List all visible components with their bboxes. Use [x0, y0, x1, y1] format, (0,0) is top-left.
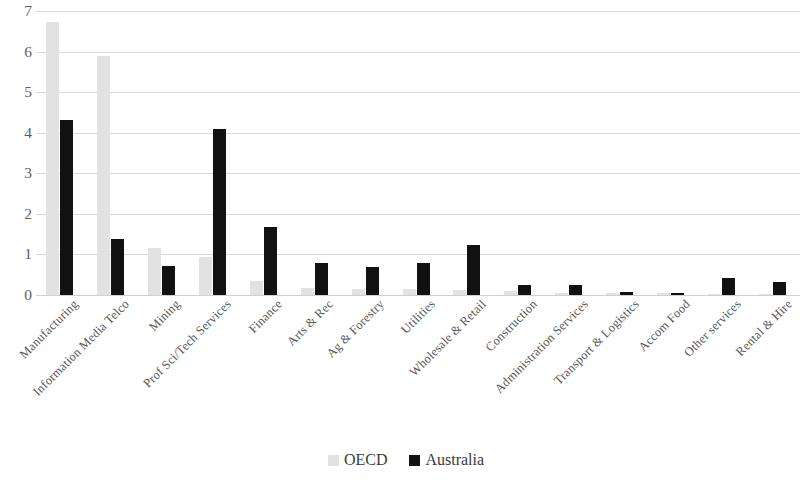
- y-axis-tick-label: 1: [4, 247, 32, 263]
- y-axis-tick-label: 0: [4, 287, 32, 303]
- plot-area: [36, 11, 800, 295]
- legend-swatch-oecd: [328, 455, 339, 466]
- bar-australia: [773, 282, 786, 295]
- x-axis-category-labels: ManufacturingInformation Media TelcoMini…: [36, 297, 800, 437]
- bar-oecd: [504, 291, 517, 295]
- bar-group: [453, 11, 480, 295]
- bar-australia: [569, 285, 582, 295]
- bar-oecd: [301, 288, 314, 295]
- x-axis-tick-label: Arts & Rec: [284, 297, 336, 349]
- bar-group: [657, 11, 684, 295]
- legend-swatch-aus: [409, 455, 420, 466]
- bar-oecd: [657, 293, 670, 295]
- y-axis-tick-label: 3: [4, 166, 32, 182]
- bar-group: [606, 11, 633, 295]
- y-axis-tick-label: 7: [4, 3, 32, 19]
- bar-oecd: [46, 22, 59, 295]
- chart-legend: OECDAustralia: [0, 452, 812, 468]
- bar-group: [555, 11, 582, 295]
- bar-australia: [417, 263, 430, 295]
- bar-oecd: [555, 293, 568, 295]
- bar-oecd: [708, 294, 721, 295]
- bar-oecd: [250, 281, 263, 295]
- bar-group: [504, 11, 531, 295]
- bar-group: [199, 11, 226, 295]
- legend-label: Australia: [425, 452, 484, 468]
- bar-australia: [111, 239, 124, 295]
- bar-group: [250, 11, 277, 295]
- legend-item: Australia: [409, 452, 484, 468]
- bar-group: [301, 11, 328, 295]
- bar-group: [97, 11, 124, 295]
- bar-group: [352, 11, 379, 295]
- bar-australia: [162, 266, 175, 295]
- bar-australia: [671, 293, 684, 295]
- y-axis-tick-label: 2: [4, 206, 32, 222]
- x-axis-tick-label: Information Media Telco: [31, 297, 133, 399]
- x-axis-tick-label: Prof Sci/Tech Services: [141, 297, 235, 391]
- bar-australia: [60, 120, 73, 295]
- y-axis: 01234567: [0, 11, 32, 295]
- legend-label: OECD: [344, 452, 388, 468]
- bar-oecd: [352, 289, 365, 295]
- bar-group: [46, 11, 73, 295]
- bar-group: [708, 11, 735, 295]
- legend-item: OECD: [328, 452, 388, 468]
- bar-oecd: [453, 290, 466, 295]
- y-axis-tick-label: 4: [4, 125, 32, 141]
- bar-australia: [264, 227, 277, 295]
- bar-oecd: [759, 294, 772, 295]
- bar-oecd: [97, 56, 110, 295]
- y-axis-tick-label: 5: [4, 84, 32, 100]
- x-axis-tick-label: Transport & Logistics: [551, 297, 642, 388]
- x-axis-tick-label: Administration Services: [492, 297, 592, 397]
- bar-group: [759, 11, 786, 295]
- bar-oecd: [148, 248, 161, 295]
- bar-australia: [366, 267, 379, 295]
- bar-oecd: [606, 293, 619, 295]
- bar-australia: [213, 129, 226, 295]
- x-axis-tick-label: Finance: [246, 297, 286, 337]
- bar-australia: [518, 285, 531, 295]
- bar-australia: [315, 263, 328, 295]
- bar-group: [148, 11, 175, 295]
- bar-australia: [722, 278, 735, 295]
- bar-oecd: [199, 257, 212, 295]
- bar-australia: [467, 245, 480, 295]
- bar-oecd: [403, 289, 416, 295]
- bar-australia: [620, 292, 633, 295]
- x-axis-tick-label: Mining: [146, 297, 183, 334]
- bar-chart: 01234567 ManufacturingInformation Media …: [0, 0, 812, 490]
- x-axis-tick-label: Utilities: [398, 297, 438, 337]
- bar-group: [403, 11, 430, 295]
- y-axis-tick-label: 6: [4, 44, 32, 60]
- gridline: [36, 295, 800, 296]
